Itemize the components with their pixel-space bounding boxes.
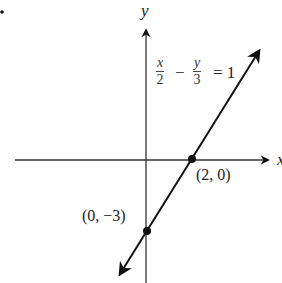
- fraction-y-over-3: y 3: [193, 56, 201, 87]
- numerator: x: [156, 56, 164, 72]
- graph-svg: [0, 0, 282, 283]
- numerator: y: [193, 56, 201, 72]
- y-axis-label: y: [141, 2, 149, 19]
- minus-sign: −: [175, 64, 185, 81]
- point-label-x-intercept: (2, 0): [196, 167, 231, 183]
- x-axis-label: x: [277, 151, 282, 168]
- denominator: 2: [156, 72, 164, 87]
- equation-rhs: = 1: [213, 64, 235, 81]
- point-label-y-intercept: (0, −3): [82, 208, 126, 224]
- denominator: 3: [193, 72, 201, 87]
- graph-figure: y x x 2 − y 3 = 1 (2, 0) (0, −3): [0, 0, 282, 283]
- equation-line: [120, 51, 259, 274]
- corner-mark: [0, 10, 4, 14]
- fraction-x-over-2: x 2: [156, 56, 164, 87]
- point-x-intercept: [188, 155, 196, 163]
- point-y-intercept: [143, 227, 151, 235]
